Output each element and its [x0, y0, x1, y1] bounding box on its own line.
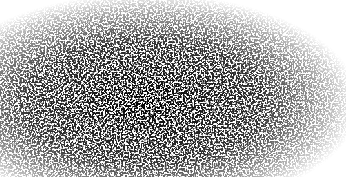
noise-texture	[0, 0, 346, 177]
speckle-texture-image	[0, 0, 346, 177]
